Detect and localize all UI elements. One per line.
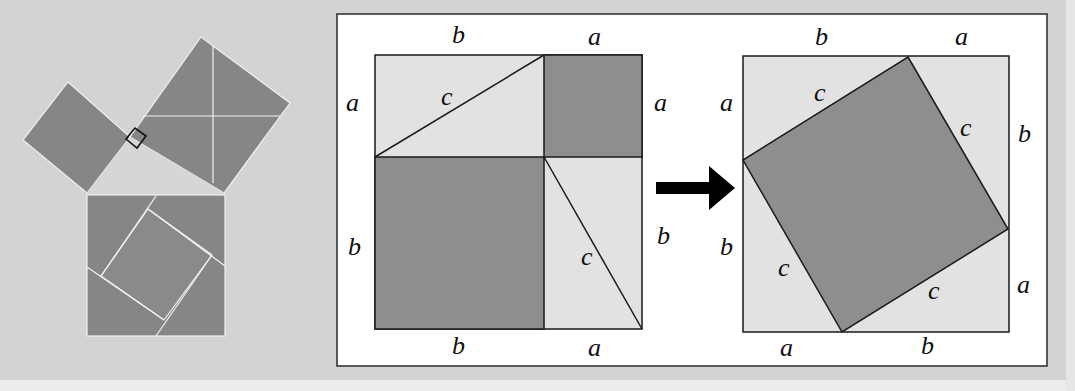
label-top-a: a	[588, 22, 601, 51]
label-right-a: a	[1017, 270, 1030, 299]
pythagoras-squares-diagram	[23, 37, 290, 336]
label-c-bottom-right: c	[928, 276, 940, 305]
label-bottom-b: b	[452, 331, 465, 360]
label-right-b: b	[657, 221, 670, 250]
label-bottom-a: a	[780, 333, 793, 362]
label-c-top: c	[441, 82, 453, 111]
label-right-a: a	[654, 88, 667, 117]
arrangement-right: b a a b b a a b c c c c	[720, 22, 1031, 362]
label-c-top-left: c	[814, 78, 826, 107]
label-left-a: a	[346, 88, 359, 117]
label-left-b: b	[720, 232, 733, 261]
label-left-b: b	[348, 232, 361, 261]
label-top-b: b	[815, 22, 828, 51]
square-a-squared	[544, 55, 642, 157]
label-right-b: b	[1018, 119, 1031, 148]
label-bottom-b: b	[921, 331, 934, 360]
label-top-b: b	[452, 20, 465, 49]
square-b-squared	[375, 157, 544, 329]
label-left-a: a	[720, 88, 733, 117]
arrangement-left: b a a b a b b a c c	[346, 20, 670, 362]
label-bottom-a: a	[588, 333, 601, 362]
label-c-top-right: c	[960, 113, 972, 142]
label-c-bottom-left: c	[778, 253, 790, 282]
label-c-bottom: c	[581, 242, 593, 271]
figure-canvas: b a a b a b b a c c b a a b b a a b c c …	[0, 0, 1075, 391]
label-top-a: a	[955, 22, 968, 51]
